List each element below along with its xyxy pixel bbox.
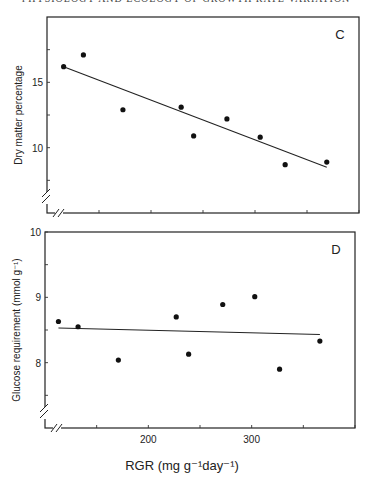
data-point (258, 135, 263, 140)
data-point (224, 116, 229, 121)
y-tick-label: 8 (35, 358, 41, 369)
data-point (277, 367, 282, 372)
data-point (283, 162, 288, 167)
y-tick-label: 9 (35, 292, 41, 303)
panel-d-glucose-chart: 2003008910DGlucose requirement (mmol g⁻¹… (11, 227, 355, 445)
data-point (120, 107, 125, 112)
y-axis-title: Dry matter percentage (13, 65, 24, 165)
y-tick-label: 10 (30, 227, 42, 238)
data-point (191, 133, 196, 138)
plot-frame (45, 232, 355, 428)
figure: 1015CDry matter percentage 2003008910DGl… (0, 0, 372, 480)
panel-label: C (335, 27, 344, 42)
data-point (81, 52, 86, 57)
x-axis-title: RGR (mg g⁻¹day⁻¹) (125, 458, 239, 473)
data-point (252, 294, 257, 299)
data-point (75, 324, 80, 329)
x-tick-label: 200 (140, 434, 157, 445)
plot-frame (47, 17, 359, 213)
x-tick-label: 300 (243, 434, 260, 445)
data-point (179, 105, 184, 110)
data-point (56, 319, 61, 324)
data-point (61, 64, 66, 69)
data-point (174, 314, 179, 319)
y-axis-title: Glucose requirement (mmol g⁻¹) (11, 258, 22, 401)
regression-line (58, 328, 319, 335)
panel-c-dry-matter-chart: 1015CDry matter percentage (13, 17, 359, 217)
y-tick-label: 10 (32, 143, 44, 154)
data-point (186, 352, 191, 357)
data-point (324, 159, 329, 164)
data-point (116, 357, 121, 362)
panel-label: D (331, 242, 340, 257)
data-point (220, 302, 225, 307)
y-tick-label: 15 (32, 77, 44, 88)
data-point (317, 339, 322, 344)
regression-line (64, 67, 327, 168)
